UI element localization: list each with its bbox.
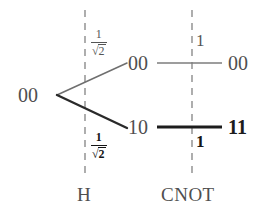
amplitude-upper-denominator: √2 bbox=[91, 44, 107, 58]
circuit-lines bbox=[0, 0, 274, 219]
output-state-label-lower: 11 bbox=[228, 117, 247, 137]
mid-state-label-lower: 10 bbox=[128, 117, 148, 137]
input-state-label: 00 bbox=[18, 85, 38, 105]
amplitude-lower-radicand: 2 bbox=[98, 147, 106, 161]
output-state-label-upper: 00 bbox=[228, 53, 248, 73]
amplitude-upper-radicand: 2 bbox=[98, 44, 106, 58]
amplitude-tree-figure: 00 1 √2 1 √2 00 10 1 1 00 11 H CNOT bbox=[0, 0, 274, 219]
cnot-amplitude-label-lower: 1 bbox=[196, 133, 205, 150]
amplitude-label-upper: 1 √2 bbox=[91, 28, 107, 57]
gate-label-h: H bbox=[77, 185, 91, 204]
amplitude-label-lower: 1 √2 bbox=[91, 131, 107, 161]
fraction-bar-lower bbox=[91, 145, 107, 147]
gate-label-cnot: CNOT bbox=[161, 185, 215, 204]
amplitude-upper-numerator: 1 bbox=[91, 28, 107, 41]
amplitude-lower-numerator: 1 bbox=[91, 131, 107, 144]
amplitude-lower-denominator: √2 bbox=[91, 147, 107, 161]
branch-line-upper bbox=[57, 63, 127, 95]
fraction-bar-upper bbox=[91, 42, 107, 43]
mid-state-label-upper: 00 bbox=[128, 53, 148, 73]
cnot-amplitude-label-upper: 1 bbox=[196, 32, 205, 49]
branch-line-lower bbox=[57, 95, 127, 128]
